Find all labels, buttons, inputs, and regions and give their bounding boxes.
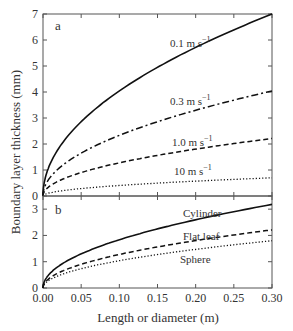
panel-b-plot: 01230.000.050.100.150.200.250.30bCylinde… [32, 196, 283, 305]
y-tick-label: 2 [32, 228, 38, 242]
y-tick-label: 0 [32, 189, 38, 203]
panel-label: b [55, 202, 62, 217]
series-line [43, 204, 272, 288]
y-tick-label: 1 [32, 255, 38, 269]
x-axis-label: Length or diameter (m) [97, 310, 219, 325]
y-axis-label: Boundary layer thickness (mm) [8, 70, 23, 234]
plot-frame [43, 14, 272, 196]
y-tick-label: 2 [32, 137, 38, 151]
series-label: Cylinder [183, 207, 222, 219]
x-tick-label: 0.10 [109, 291, 130, 305]
x-tick-label: 0.20 [185, 291, 206, 305]
x-tick-label: 0.30 [262, 291, 283, 305]
x-tick-label: 0.15 [147, 291, 168, 305]
series-label: 0.1 m s−1 [170, 35, 211, 49]
series-line [43, 91, 272, 196]
series-label: Sphere [180, 253, 211, 265]
boundary-layer-figure: 01234567a0.1 m s−10.3 m s−11.0 m s−110 m… [0, 0, 293, 331]
series-line [43, 230, 272, 288]
y-tick-label: 3 [32, 111, 38, 125]
series-label: 0.3 m s−1 [170, 93, 211, 107]
y-tick-label: 4 [32, 85, 38, 99]
series-line [43, 14, 272, 196]
x-tick-label: 0.05 [71, 291, 92, 305]
y-tick-label: 7 [32, 7, 38, 21]
y-tick-label: 5 [32, 59, 38, 73]
y-tick-label: 6 [32, 33, 38, 47]
series-label: 1.0 m s−1 [172, 134, 213, 148]
series-line [43, 139, 272, 197]
x-tick-label: 0.25 [223, 291, 244, 305]
x-tick-label: 0.00 [33, 291, 54, 305]
series-label: 10 m s−1 [174, 163, 212, 177]
y-tick-label: 3 [32, 202, 38, 216]
series-line [43, 241, 272, 288]
plot-frame [43, 196, 272, 288]
series-label: Flat leaf [183, 230, 220, 242]
y-tick-label: 1 [32, 163, 38, 177]
panel-label: a [55, 18, 61, 33]
panel-a-plot: 01234567a0.1 m s−10.3 m s−11.0 m s−110 m… [32, 7, 272, 203]
